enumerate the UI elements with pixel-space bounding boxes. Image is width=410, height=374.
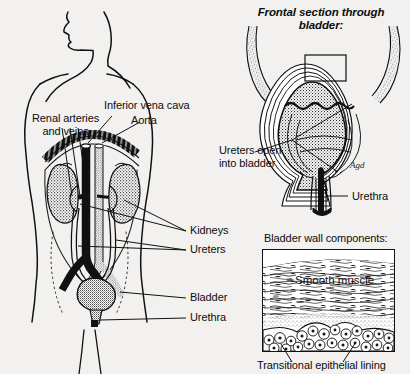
- bladder-wall-histology: [0, 0, 410, 374]
- smooth-muscle-label: Smooth muscle: [295, 274, 374, 286]
- figure-root: Renal arteries and veins Inferior vena c…: [0, 0, 410, 374]
- transitional-epithelial-lining-caption: Transitional epithelial lining: [257, 359, 386, 372]
